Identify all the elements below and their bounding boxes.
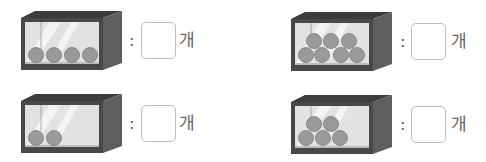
answer-box[interactable] [141,22,176,59]
counting-item-4: : 개 [291,95,486,162]
colon: : [400,117,405,133]
unit-label: 개 [179,115,195,132]
colon: : [129,33,134,49]
unit-label: 개 [451,116,467,133]
counting-item-1: : 개 [21,11,221,81]
unit-label: 개 [179,32,195,49]
glass-case-icon [21,11,125,75]
glass-case-icon [21,94,125,158]
answer-box[interactable] [411,23,446,60]
unit-label: 개 [451,33,467,50]
glass-case-icon [291,95,395,159]
counting-item-2: : 개 [291,12,486,82]
glass-case-icon [291,12,395,76]
counting-item-3: : 개 [21,94,221,162]
answer-box[interactable] [411,106,446,143]
colon: : [400,34,405,50]
answer-box[interactable] [141,105,176,142]
colon: : [129,116,134,132]
